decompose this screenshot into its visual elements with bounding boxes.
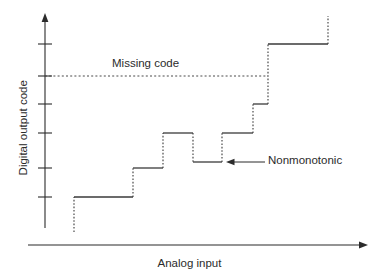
x-axis-group [28,242,368,249]
nonmonotonic-arrowhead-icon [226,159,235,165]
plot-canvas [0,0,379,278]
missing-code-label: Missing code [112,58,179,70]
nonmonotonic-label: Nonmonotonic [268,155,342,167]
y-axis-arrowhead-icon [42,13,49,22]
x-axis-label: Analog input [0,258,379,270]
nonmonotonic-annotation-group [226,159,265,165]
y-axis-label: Digital output code [18,58,30,198]
x-axis-arrowhead-icon [359,242,368,249]
y-axis-group [38,13,52,228]
staircase-risers-group [74,16,328,232]
adc-transfer-function-figure: Missing code Nonmonotonic Analog input D… [0,0,379,278]
